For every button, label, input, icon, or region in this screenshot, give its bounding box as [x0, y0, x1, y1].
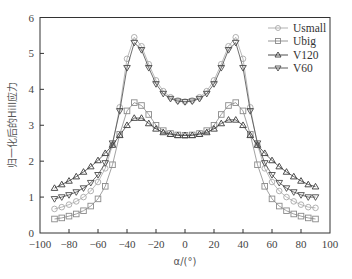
y-tick-label: 6: [29, 12, 35, 24]
triangle-down-marker-icon: [305, 195, 312, 201]
x-tick-label: 60: [267, 238, 279, 250]
triangle-down-marker-icon: [283, 186, 290, 192]
y-tick-label: 5: [29, 47, 35, 59]
triangle-up-marker-icon: [73, 173, 80, 179]
legend-item-usmall: Usmall: [268, 22, 326, 34]
legend-label: V120: [293, 49, 319, 61]
triangle-up-marker-icon: [283, 169, 290, 175]
y-tick-label: 0: [29, 227, 35, 239]
triangle-up-marker-icon: [290, 173, 297, 179]
y-axis-title: 归一化后的Hill应力: [6, 82, 18, 168]
triangle-up-marker-icon: [145, 120, 152, 126]
series-ubig: [52, 100, 319, 222]
x-tick-label: 40: [238, 238, 250, 250]
series-line: [55, 37, 316, 209]
triangle-down-marker-icon: [276, 180, 283, 186]
legend-item-v60: V60: [268, 62, 313, 74]
triangle-up-marker-icon: [51, 185, 58, 191]
triangle-down-marker-icon: [275, 66, 281, 71]
x-tick-label: −40: [118, 238, 136, 250]
triangle-up-marker-icon: [218, 120, 225, 126]
x-tick-label: 20: [209, 238, 221, 250]
triangle-up-marker-icon: [275, 52, 281, 57]
triangle-up-marker-icon: [240, 122, 247, 128]
y-tick-label: 2: [29, 155, 35, 167]
triangle-up-marker-icon: [80, 169, 87, 175]
triangle-up-marker-icon: [58, 181, 65, 187]
x-axis-title: α/(°): [174, 256, 197, 267]
x-tick-label: 80: [296, 238, 308, 250]
plot-series: [51, 34, 319, 221]
legend-item-v120: V120: [268, 49, 319, 61]
legend-label: Usmall: [293, 22, 326, 34]
triangle-up-marker-icon: [298, 178, 305, 184]
y-tick-label: 1: [29, 191, 35, 203]
x-tick-label: −100: [29, 238, 52, 250]
legend-label: Ubig: [293, 35, 316, 48]
triangle-up-marker-icon: [131, 115, 138, 121]
triangle-down-marker-icon: [312, 195, 319, 201]
x-tick-label: −20: [147, 238, 165, 250]
series-line: [55, 103, 316, 219]
legend-label: V60: [293, 62, 313, 74]
series-line: [55, 118, 316, 188]
x-tick-label: 100: [322, 238, 339, 250]
x-axis-ticks: −100−80−60−40−20020406080100: [29, 229, 339, 250]
triangle-up-marker-icon: [66, 178, 73, 184]
x-tick-label: −60: [89, 238, 107, 250]
y-axis-ticks: 0123456: [29, 12, 45, 240]
y-tick-label: 3: [29, 119, 35, 131]
triangle-up-marker-icon: [232, 117, 239, 123]
plot-frame: [40, 18, 330, 234]
x-tick-label: −80: [60, 238, 78, 250]
legend-item-ubig: Ubig: [268, 35, 316, 48]
triangle-up-marker-icon: [138, 115, 145, 121]
x-tick-label: 0: [182, 238, 188, 250]
hill-stress-chart: −100−80−60−40−20020406080100 0123456 α/(…: [0, 0, 352, 279]
legend: UsmallUbigV120V60: [268, 22, 326, 74]
triangle-down-marker-icon: [80, 186, 87, 192]
triangle-up-marker-icon: [305, 181, 312, 187]
triangle-up-marker-icon: [225, 117, 232, 123]
series-v60: [51, 40, 319, 202]
y-tick-label: 4: [29, 83, 35, 95]
series-v120: [51, 115, 319, 191]
triangle-down-marker-icon: [51, 197, 58, 203]
triangle-down-marker-icon: [87, 180, 94, 186]
